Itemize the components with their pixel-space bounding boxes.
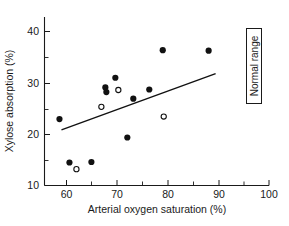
x-axis-title: Arterial oxygen saturation (%) <box>88 203 226 215</box>
y-ticklabel-40: 40 <box>27 25 39 37</box>
data-point-filled <box>66 159 72 165</box>
x-ticklabel-100: 100 <box>260 188 278 200</box>
scatter-chart-figure: 40 30 20 10 60 70 80 90 100 Arterial oxy… <box>0 0 289 226</box>
data-point-filled <box>146 86 152 92</box>
normal-range-annotation: Normal range <box>247 29 262 104</box>
data-point-filled <box>112 75 118 81</box>
y-axis-title: Xylose absorption (%) <box>3 50 15 153</box>
x-ticklabel-70: 70 <box>111 188 123 200</box>
x-ticklabel-80: 80 <box>162 188 174 200</box>
data-point-open <box>161 114 166 119</box>
y-ticklabel-20: 20 <box>27 128 39 140</box>
x-ticklabel-60: 60 <box>61 188 73 200</box>
data-point-filled <box>130 96 136 102</box>
y-ticklabel-30: 30 <box>27 77 39 89</box>
data-point-filled <box>206 48 212 54</box>
data-point-open <box>116 87 121 92</box>
chart-canvas: 40 30 20 10 60 70 80 90 100 Arterial oxy… <box>0 0 289 226</box>
data-point-open <box>99 104 104 109</box>
data-point-filled <box>124 134 130 140</box>
data-point-filled <box>160 47 166 53</box>
normal-range-label: Normal range <box>249 35 260 96</box>
chart-background <box>0 0 289 226</box>
data-point-filled <box>88 159 94 165</box>
y-ticklabel-10: 10 <box>27 179 39 191</box>
data-point-filled <box>56 116 62 122</box>
x-ticklabel-90: 90 <box>213 188 225 200</box>
data-point-filled <box>103 89 109 95</box>
data-point-open <box>74 167 79 172</box>
